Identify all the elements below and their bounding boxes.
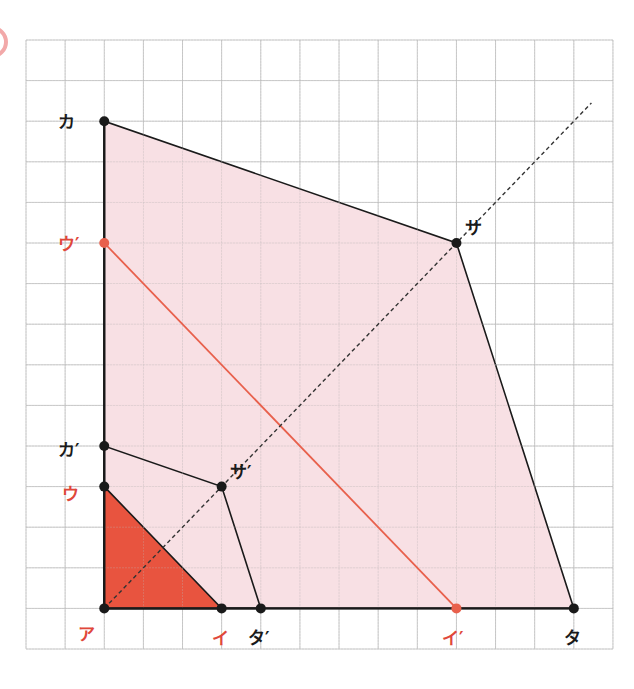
- label-ka2: カ′: [58, 440, 80, 460]
- point-ta-dot: [569, 603, 579, 613]
- point-i2-dot: [451, 603, 461, 613]
- label-sa: サ: [465, 218, 482, 238]
- label-ta: タ: [564, 628, 581, 648]
- point-sa2-dot: [217, 482, 227, 492]
- problem-number-marker: [0, 28, 6, 56]
- label-ta2: タ′: [248, 628, 270, 648]
- geometry-diagram: アイウカカ′サ′タ′サタウ′イ′: [0, 0, 634, 689]
- point-ta2-dot: [256, 603, 266, 613]
- point-a-dot: [99, 603, 109, 613]
- point-i-dot: [217, 603, 227, 613]
- label-u: ウ: [62, 484, 79, 504]
- point-u2-dot: [99, 238, 109, 248]
- label-sa2: サ′: [230, 462, 252, 482]
- label-i2: イ′: [442, 628, 464, 648]
- label-ka: カ: [58, 112, 75, 132]
- label-a: ア: [78, 624, 95, 644]
- label-i: イ: [212, 628, 229, 648]
- point-ka-dot: [99, 116, 109, 126]
- marker-circle-icon: [0, 28, 6, 56]
- point-sa-dot: [451, 238, 461, 248]
- shapes: [26, 40, 613, 649]
- point-ka2-dot: [99, 441, 109, 451]
- label-u2: ウ′: [58, 234, 80, 254]
- point-u-dot: [99, 482, 109, 492]
